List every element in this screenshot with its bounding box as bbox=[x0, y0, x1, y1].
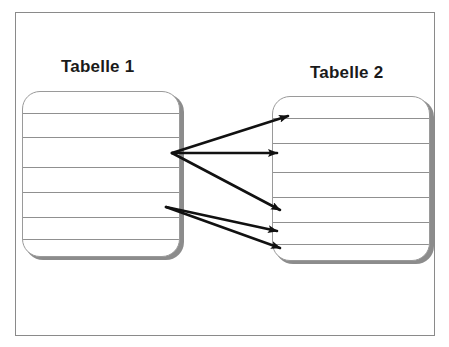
table-2-row-divider bbox=[273, 143, 429, 144]
table-1-row-divider bbox=[23, 113, 179, 114]
table-1-title: Tabelle 1 bbox=[61, 57, 134, 77]
table-1-row-divider bbox=[23, 239, 179, 240]
table-2-row-divider bbox=[273, 172, 429, 173]
table-2-row-divider bbox=[273, 118, 429, 119]
table-1-row-divider bbox=[23, 137, 179, 138]
table-2-title: Tabelle 2 bbox=[310, 63, 383, 83]
table-2-row-divider bbox=[273, 222, 429, 223]
table-1 bbox=[22, 91, 180, 257]
table-1-row-divider bbox=[23, 167, 179, 168]
table-2 bbox=[272, 96, 430, 261]
table-1-row-divider bbox=[23, 192, 179, 193]
table-2-row-divider bbox=[273, 197, 429, 198]
table-1-row-divider bbox=[23, 217, 179, 218]
table-2-row-divider bbox=[273, 244, 429, 245]
